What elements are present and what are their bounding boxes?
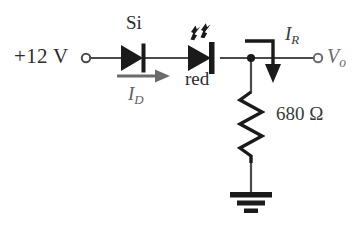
output-voltage-label: Vo: [327, 46, 346, 69]
ir-arrow-path: [245, 41, 273, 66]
led-symbol: [188, 23, 215, 74]
junction-node-dot: [247, 54, 255, 62]
id-subscript: D: [134, 92, 143, 107]
led-cathode-bar: [209, 42, 215, 74]
light-arrow-1: [191, 26, 201, 41]
supply-terminal-node: [82, 54, 90, 62]
resistor-zigzag: [240, 92, 262, 163]
output-terminal-node: [314, 54, 322, 62]
ground-bar-1: [230, 192, 272, 198]
ir-subscript: R: [291, 32, 299, 47]
silicon-diode-symbol: [121, 44, 146, 73]
circuit-diagram-figure: +12 V Si red 680 Ω ID IR Vo: [0, 0, 359, 227]
ground-bar-2: [237, 201, 265, 206]
id-arrow-head: [155, 70, 170, 83]
vo-symbol: V: [327, 45, 339, 67]
led-light-arrows: [191, 23, 211, 40]
diode-current-label: ID: [128, 84, 144, 107]
resistor-current-label: IR: [285, 24, 299, 47]
diode-triangle: [121, 45, 143, 71]
light-arrow-2: [201, 23, 211, 38]
silicon-diode-label: Si: [126, 13, 142, 32]
resistor-value-label: 680 Ω: [276, 104, 323, 123]
ir-arrow-head: [265, 64, 281, 83]
vo-subscript: o: [339, 55, 346, 70]
led-color-label: red: [185, 69, 209, 88]
ground-bar-3: [244, 209, 258, 214]
supply-voltage-label: +12 V: [14, 46, 68, 67]
ground-symbol: [230, 192, 272, 213]
diode-cathode-bar: [142, 44, 146, 73]
